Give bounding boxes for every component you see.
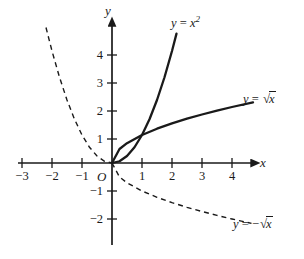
x-tick-label--3: −3: [12, 170, 32, 183]
curve-label-sqrt: y = √x: [243, 92, 276, 106]
y-tick-label-2: 2: [87, 105, 103, 118]
x-tick-label--2: −2: [42, 170, 62, 183]
parabola-equals: =: [180, 16, 187, 30]
curve-parabola-solid: [112, 34, 177, 163]
x-tick-label-2: 2: [164, 170, 180, 183]
x-axis-label: x: [260, 156, 266, 169]
math-figure: −3 −2 −1 1 2 3 4 4 3 2 1 −1 −2 O x y y =…: [0, 0, 304, 259]
x-tick-label-4: 4: [224, 170, 240, 183]
neg-sqrt-minus: −: [252, 217, 259, 231]
y-tick-label-4: 4: [87, 49, 103, 62]
x-tick-label-1: 1: [134, 170, 150, 183]
x-tick-label--1: −1: [72, 170, 92, 183]
parabola-rhs-exponent: 2: [195, 14, 200, 24]
y-tick-label--2: −2: [81, 213, 103, 226]
sqrt-radical-group: √x: [262, 92, 276, 106]
curve-label-parabola: y = x2: [171, 15, 200, 30]
y-tick-label-1: 1: [87, 133, 103, 146]
sqrt-radicand: x: [269, 91, 276, 106]
y-tick-label--1: −1: [81, 185, 103, 198]
neg-sqrt-radicand: x: [266, 216, 273, 231]
neg-sqrt-equals: =: [242, 217, 249, 231]
y-axis-label: y: [105, 4, 111, 17]
curve-label-neg-sqrt: y = −√x: [233, 217, 273, 231]
x-tick-label-3: 3: [194, 170, 210, 183]
y-tick-label-3: 3: [87, 77, 103, 90]
neg-sqrt-radical-group: √x: [259, 217, 273, 231]
sqrt-equals: =: [252, 92, 259, 106]
origin-label: O: [97, 170, 106, 183]
curve-sqrt-solid: [112, 102, 253, 163]
